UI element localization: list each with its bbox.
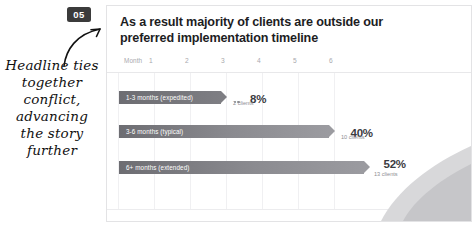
bar-category-label: 6+ months (extended) xyxy=(126,161,189,174)
decorative-swoosh xyxy=(351,146,471,221)
annotation-line: advancing xyxy=(0,108,104,125)
axis-tick: 6 xyxy=(329,57,333,64)
slide-title: As a result majority of clients are outs… xyxy=(120,15,440,46)
bar-category-label: 1-3 months (expedited) xyxy=(126,91,193,104)
gridline xyxy=(298,73,299,209)
bar-category-label: 3-6 months (typical) xyxy=(126,125,183,138)
axis-tick: 2 xyxy=(185,57,189,64)
bar: 6+ months (extended) xyxy=(119,161,364,174)
annotation-line: the story xyxy=(0,125,104,142)
annotation-line: together xyxy=(0,74,104,91)
bar-stat: 8% 2 clients xyxy=(233,89,266,108)
axis-tick: 1 xyxy=(149,57,153,64)
bar-arrow-cap xyxy=(329,125,335,137)
client-count-label: 10 clients xyxy=(341,134,365,140)
chart-row: 6+ months (extended) 52% 13 clients xyxy=(119,161,364,174)
curved-arrow-icon xyxy=(56,20,112,68)
annotation-note: Headline ties together conflict, advanci… xyxy=(0,57,104,159)
axis-tick: 3 xyxy=(221,57,225,64)
axis-tick: 4 xyxy=(257,57,261,64)
client-count-label: 2 clients xyxy=(233,100,254,106)
chart-row: 3-6 months (typical) 40% 10 clients xyxy=(119,125,329,138)
annotation-line: further xyxy=(0,142,104,159)
chart-x-axis: Month 1 2 3 4 5 6 xyxy=(107,56,471,72)
slide-panel: As a result majority of clients are outs… xyxy=(106,5,472,222)
gridline xyxy=(334,73,335,209)
axis-tick: 5 xyxy=(293,57,297,64)
annotation-line: conflict, xyxy=(0,91,104,108)
bar-stat: 40% 10 clients xyxy=(341,123,373,141)
bar-arrow-cap xyxy=(221,91,227,103)
bar: 1-3 months (expedited) xyxy=(119,91,221,104)
chart-row: 1-3 months (expedited) 8% 2 clients xyxy=(119,91,221,104)
bar: 3-6 months (typical) xyxy=(119,125,329,138)
axis-title: Month xyxy=(124,57,142,64)
